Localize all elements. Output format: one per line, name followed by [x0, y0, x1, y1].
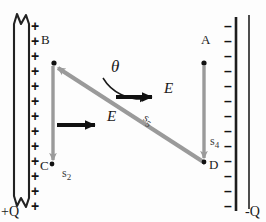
- minus-sign: –: [224, 153, 232, 169]
- point-dot-D: [202, 160, 207, 165]
- point-label-A: A: [201, 33, 210, 46]
- plus-sign: +: [31, 183, 39, 199]
- plus-sign: +: [31, 168, 39, 184]
- minus-sign: –: [224, 33, 232, 49]
- s4-subscript: 4: [215, 140, 220, 150]
- point-dot-C: [50, 162, 55, 167]
- s2-subscript: 2: [67, 172, 72, 182]
- plus-sign: +: [31, 153, 39, 169]
- vector-label-s2: s2: [62, 163, 71, 182]
- point-dot-A: [201, 60, 206, 65]
- plus-sign: +: [31, 108, 39, 124]
- minus-sign: –: [224, 63, 232, 79]
- minus-sign: –: [224, 138, 232, 154]
- minus-sign: –: [224, 198, 232, 214]
- plate-charge-label-positive: +Q: [1, 205, 19, 219]
- vector-label-E-lower: E: [107, 107, 116, 125]
- right-plate-negative: [236, 15, 249, 211]
- minus-sign: –: [224, 168, 232, 184]
- minus-sign: –: [224, 93, 232, 109]
- E-symbol: E: [107, 108, 116, 124]
- plus-sign: +: [31, 48, 39, 64]
- plus-sign: +: [31, 198, 39, 214]
- plus-sign: +: [31, 33, 39, 49]
- point-label-C: C: [40, 159, 49, 172]
- angle-label-theta: θ: [111, 58, 119, 75]
- left-plate-positive: [14, 14, 29, 207]
- plus-sign: +: [31, 123, 39, 139]
- figure-canvas: + + + + + + + + + + + + + – – – – – – – …: [0, 0, 266, 222]
- point-dot-B: [51, 60, 56, 65]
- minus-sign: –: [224, 48, 232, 64]
- plus-sign: +: [31, 18, 39, 34]
- plus-sign: +: [31, 78, 39, 94]
- minus-sign: –: [224, 108, 232, 124]
- plate-charge-label-negative: -Q: [245, 205, 260, 219]
- minus-sign-column: – – – – – – – – – – – – –: [224, 18, 236, 210]
- plus-sign: +: [31, 93, 39, 109]
- minus-sign: –: [224, 18, 232, 34]
- minus-sign: –: [224, 183, 232, 199]
- E-symbol: E: [164, 80, 173, 96]
- minus-sign: –: [224, 78, 232, 94]
- vector-s5-line: [58, 68, 205, 163]
- point-label-D: D: [209, 158, 218, 171]
- plus-sign: +: [31, 63, 39, 79]
- plus-sign: +: [31, 138, 39, 154]
- vector-label-s4: s4: [210, 131, 219, 150]
- vector-label-E-upper: E: [164, 79, 173, 97]
- point-label-B: B: [41, 33, 50, 46]
- minus-sign: –: [224, 123, 232, 139]
